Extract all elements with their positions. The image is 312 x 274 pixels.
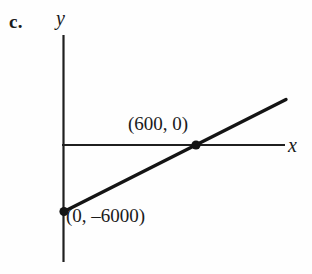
point-marker-x-intercept [191, 140, 200, 149]
y-axis-label: y [56, 8, 65, 28]
coordinate-plot [0, 0, 312, 274]
point-label-y-intercept: (0, –6000) [66, 206, 145, 225]
figure-panel: c. y x (600, 0) (0, –6000) [0, 0, 312, 274]
part-label: c. [9, 12, 23, 31]
point-label-x-intercept: (600, 0) [128, 114, 188, 133]
x-axis-label: x [288, 135, 297, 155]
